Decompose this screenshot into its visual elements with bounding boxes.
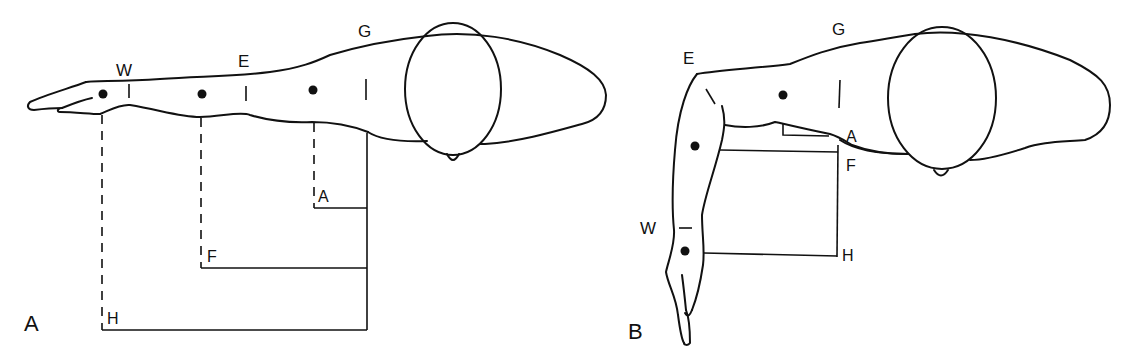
label-glenohumeral: G xyxy=(832,20,845,39)
upper-arm-upper-contour xyxy=(697,34,915,74)
arm-upper-contour xyxy=(86,36,427,82)
nose xyxy=(934,170,948,176)
torso-outline xyxy=(840,32,1110,160)
label-elbow: E xyxy=(683,49,694,68)
glenohumeral-tick xyxy=(839,80,840,108)
elbow-tick xyxy=(706,89,715,104)
shoulder-center-dot xyxy=(309,86,318,95)
hand-outline xyxy=(684,310,692,345)
label-wrist: W xyxy=(640,219,656,238)
torso-outline xyxy=(368,34,606,144)
shoulder-center-dot xyxy=(779,91,788,100)
elbow-center-dot xyxy=(198,90,207,99)
label-forearm: F xyxy=(846,157,856,174)
label-hand: H xyxy=(842,247,854,264)
panel-label-a: A xyxy=(24,311,39,336)
arm-segment-diagram: W E G A F H A xyxy=(0,0,1130,364)
label-arm: A xyxy=(846,128,857,145)
label-glenohumeral: G xyxy=(358,22,371,41)
wrist-center-dot xyxy=(99,90,108,99)
label-wrist: W xyxy=(116,61,132,80)
label-arm: A xyxy=(318,188,329,205)
panel-a: W E G A F H A xyxy=(24,22,606,336)
forearm-inner-contour xyxy=(692,106,724,310)
thumb-line xyxy=(62,98,92,108)
label-elbow: E xyxy=(238,52,249,71)
label-forearm: F xyxy=(207,248,217,265)
forearm-length-line xyxy=(720,150,838,152)
panel-label-b: B xyxy=(628,319,643,344)
upper-arm-lower-contour xyxy=(725,122,908,154)
wrist-center-dot xyxy=(681,247,690,256)
forearm-outer-contour xyxy=(666,74,697,343)
head xyxy=(888,27,996,169)
arm-lower-contour xyxy=(100,105,368,132)
panel-b: E G W A F H B xyxy=(628,20,1110,345)
shoulder-reference-line xyxy=(837,145,838,257)
thumb-line xyxy=(682,275,686,310)
label-hand: H xyxy=(107,310,119,327)
hand-length-line xyxy=(704,253,837,256)
elbow-center-dot xyxy=(691,142,700,151)
head xyxy=(405,23,501,155)
